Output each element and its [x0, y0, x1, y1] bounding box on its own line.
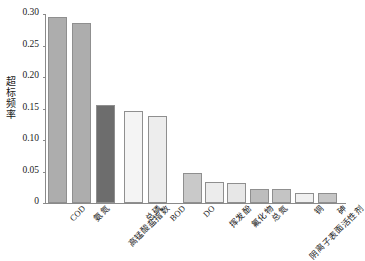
plot-area: [46, 14, 343, 203]
bar: [183, 173, 202, 203]
x-tick-label: 挥发酚: [228, 204, 253, 229]
x-axis-labels: COD氨氮高锰酸盐指数总磷BODDO挥发酚氟化物总氮阴离子表面活性剂铜砷: [46, 204, 346, 261]
y-axis-title: 超标频率: [4, 76, 17, 120]
bar: [250, 189, 269, 203]
y-tick-label: 0: [34, 196, 39, 206]
x-tick-label: 铜: [313, 204, 326, 217]
x-tick-label: 氨氮: [92, 204, 111, 223]
y-tick-label: 0.20: [22, 70, 39, 80]
bar: [72, 23, 91, 203]
bar: [96, 105, 115, 203]
bar: [205, 182, 224, 203]
bar: [295, 193, 314, 203]
bar: [48, 17, 67, 203]
y-tick-label: 0.15: [22, 102, 39, 112]
bar: [124, 111, 143, 203]
bar: [272, 189, 291, 203]
x-tick-label: 总氮: [270, 204, 289, 223]
x-tick-label: COD: [68, 204, 87, 223]
y-tick-label: 0.30: [22, 7, 39, 17]
bar: [318, 193, 337, 203]
x-tick-label: DO: [202, 204, 217, 219]
y-tick-label: 0.25: [22, 39, 39, 49]
x-tick-label: BOD: [168, 204, 187, 223]
y-tick-label: 0.05: [22, 165, 39, 175]
bar: [227, 183, 246, 203]
y-tick-label: 0.10: [22, 133, 39, 143]
bar: [148, 116, 167, 203]
